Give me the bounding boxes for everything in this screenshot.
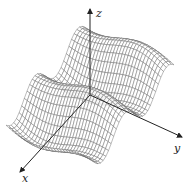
y-axis-label: y — [173, 142, 181, 155]
z-axis-label: z — [95, 7, 102, 20]
x-axis-label: x — [22, 172, 29, 183]
surface-plot: z y x — [0, 0, 186, 183]
